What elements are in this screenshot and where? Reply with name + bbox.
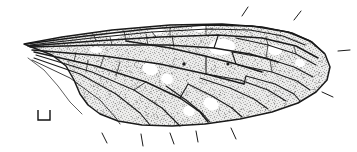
stipple-dot [193,43,194,44]
stipple-dot [94,89,95,90]
stipple-dot [162,115,163,116]
stipple-dot [261,61,262,62]
stipple-dot [240,109,241,110]
stipple-dot [199,122,200,123]
stipple-dot [320,61,321,62]
stipple-dot [115,78,116,79]
stipple-dot [267,57,268,58]
stipple-dot [132,118,133,119]
stipple-dot [110,93,111,94]
stipple-dot [319,82,320,83]
stipple-dot [160,94,161,95]
stipple-dot [145,86,146,87]
wing-illustration-figure [0,0,357,152]
stipple-dot [233,86,234,87]
stipple-dot [126,61,127,62]
stipple-dot [228,37,229,38]
stipple-dot [211,69,212,70]
stipple-dot [318,73,319,74]
stipple-dot [282,81,283,82]
stipple-dot [128,62,129,63]
stipple-dot [280,34,281,35]
stipple-dot [165,120,166,121]
stipple-dot [156,102,157,103]
stipple-dot [321,76,322,77]
stipple-dot [188,75,189,76]
stipple-dot [305,43,306,44]
stipple-dot [188,50,189,51]
stipple-dot [146,112,147,113]
stipple-dot [141,36,142,37]
stipple-dot [176,55,177,56]
stipple-dot [70,67,71,68]
stipple-dot [249,46,250,47]
stipple-dot [200,91,201,92]
stipple-dot [275,66,276,67]
stipple-dot [52,53,53,54]
stipple-dot [198,65,199,66]
stipple-dot [222,57,223,58]
stipple-dot [135,46,136,47]
stipple-dot [104,79,105,80]
stipple-dot [104,54,105,55]
stipple-dot [184,57,185,58]
stipple-dot [209,42,210,43]
stipple-dot [109,96,110,97]
stipple-dot [153,90,154,91]
stipple-dot [140,72,141,73]
stipple-dot [161,67,162,68]
stipple-dot [194,44,195,45]
stipple-dot [160,100,161,101]
stipple-dot [195,51,196,52]
stipple-dot [145,88,146,89]
stipple-dot [228,70,229,71]
stipple-dot [305,92,306,93]
stipple-dot [77,48,78,49]
stipple-dot [120,111,121,112]
stipple-dot [200,43,201,44]
stipple-dot [238,45,239,46]
stipple-dot [277,63,278,64]
stipple-dot [232,97,233,98]
stipple-dot [282,59,283,60]
stipple-dot [88,49,89,50]
stipple-dot [310,50,311,51]
stipple-dot [181,89,182,90]
stipple-dot [78,58,79,59]
stipple-dot [260,47,261,48]
stipple-dot [170,121,171,122]
stipple-dot [105,108,106,109]
stipple-dot [225,33,226,34]
stipple-dot [128,90,129,91]
stipple-dot [309,48,310,49]
stipple-dot [267,37,268,38]
stipple-dot [293,69,294,70]
stipple-dot [235,32,236,33]
stipple-dot [176,77,177,78]
stipple-dot [269,110,270,111]
stipple-dot [215,70,216,71]
stipple-dot [317,87,318,88]
stipple-dot [156,114,157,115]
stipple-dot [178,120,179,121]
stipple-dot [270,110,271,111]
stipple-dot [216,111,217,112]
stipple-dot [276,36,277,37]
stipple-dot [99,83,100,84]
stipple-dot [218,67,219,68]
stipple-dot [187,67,188,68]
stipple-dot [185,94,186,95]
stipple-dot [103,84,104,85]
stipple-dot [220,80,221,81]
stipple-dot [262,84,263,85]
stipple-dot [266,103,267,104]
stipple-dot [151,93,152,94]
stipple-dot [150,53,151,54]
stipple-dot [118,118,119,119]
stipple-dot [136,102,137,103]
stipple-dot [141,91,142,92]
stipple-dot [237,97,238,98]
stipple-dot [235,49,236,50]
stipple-dot [158,117,159,118]
stipple-dot [163,38,164,39]
